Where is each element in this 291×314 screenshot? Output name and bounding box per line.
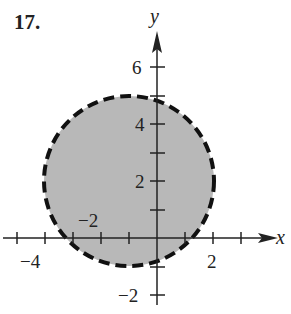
y-axis-label: y bbox=[148, 5, 159, 28]
x-tick-label-2: 2 bbox=[207, 251, 217, 272]
y-tick-label-6: 6 bbox=[132, 57, 142, 78]
y-tick-label-neg2: −2 bbox=[118, 285, 138, 306]
x-tick-label-neg4: −4 bbox=[20, 251, 41, 272]
y-tick-label-2: 2 bbox=[135, 171, 145, 192]
x-axis-label: x bbox=[275, 226, 285, 248]
y-tick-label-4: 4 bbox=[135, 114, 145, 135]
x-tick-label-neg2: −2 bbox=[78, 210, 98, 231]
graph: x y −4 −2 2 6 4 2 −2 bbox=[0, 0, 291, 314]
